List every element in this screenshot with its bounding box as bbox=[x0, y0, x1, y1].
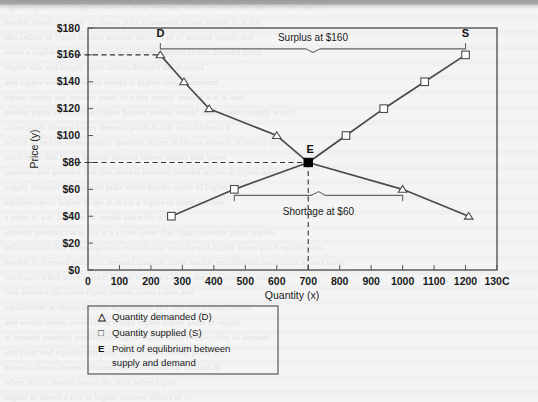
supply-data-point bbox=[421, 78, 429, 86]
equilibrium-label: E bbox=[307, 143, 314, 155]
surplus-brace bbox=[160, 43, 465, 53]
y-tick-label: $0 bbox=[68, 264, 80, 276]
y-tick-label: $40 bbox=[62, 210, 80, 222]
x-tick-label: 1000 bbox=[391, 275, 415, 287]
x-tick-label: 400 bbox=[205, 275, 223, 287]
shortage-brace bbox=[234, 192, 402, 202]
x-tick-label: 130C bbox=[484, 275, 510, 287]
surplus-label: Surplus at $160 bbox=[278, 32, 348, 43]
legend-marker-equilibrium: E bbox=[98, 343, 105, 354]
series-endpoint-label-D: D bbox=[156, 27, 164, 39]
shortage-label: Shortage at $60 bbox=[283, 206, 355, 217]
x-tick-label: 300 bbox=[174, 275, 192, 287]
legend-marker-demand: △ bbox=[97, 311, 106, 322]
supply-data-point bbox=[380, 105, 388, 113]
y-axis-title: Price (y) bbox=[28, 129, 40, 168]
equilibrium-point: E bbox=[304, 143, 314, 166]
supply-data-point bbox=[462, 51, 470, 59]
x-tick-label: 1100 bbox=[423, 275, 446, 287]
x-axis-title: Quantity (x) bbox=[265, 289, 319, 301]
x-tick-label: 0 bbox=[85, 275, 91, 287]
y-tick-label: $20 bbox=[62, 237, 80, 249]
x-tick-label: 200 bbox=[142, 275, 160, 287]
reference-lines-outside bbox=[76, 55, 308, 163]
legend-label-demand: Quantity demanded (D) bbox=[112, 311, 212, 322]
supply-data-point bbox=[230, 186, 238, 194]
x-axis-ticks: 0100200300400500600700800900100011001200… bbox=[85, 265, 510, 287]
y-tick-label: $100 bbox=[57, 129, 81, 141]
x-tick-label: 800 bbox=[331, 275, 349, 287]
x-tick-label: 700 bbox=[299, 275, 317, 287]
x-tick-label: 100 bbox=[111, 275, 129, 287]
y-tick-label: $180 bbox=[57, 22, 81, 34]
x-tick-label: 500 bbox=[237, 275, 255, 287]
legend-label-equilibrium-line1: Point of equlibrium between bbox=[112, 343, 230, 354]
x-tick-label: 900 bbox=[362, 275, 380, 287]
y-tick-label: $120 bbox=[57, 102, 81, 114]
equilibrium-marker bbox=[304, 158, 312, 166]
legend-label-supply: Quantity supplied (S) bbox=[112, 327, 202, 338]
annotations-group: Surplus at $160Shortage at $60 bbox=[160, 32, 465, 217]
supply-data-point bbox=[168, 212, 176, 220]
y-tick-label: $60 bbox=[62, 183, 80, 195]
legend-marker-supply: □ bbox=[98, 327, 104, 338]
chart-legend: △ Quantity demanded (D) □ Quantity suppl… bbox=[88, 306, 278, 374]
x-tick-label: 600 bbox=[268, 275, 286, 287]
series-endpoint-label-S: S bbox=[462, 27, 469, 39]
y-tick-label: $140 bbox=[57, 75, 81, 87]
supply-demand-chart: $0$20$40$60$80$100$120$140$160$180 01002… bbox=[0, 0, 538, 402]
data-series-group bbox=[156, 51, 473, 220]
supply-data-point bbox=[342, 132, 350, 140]
x-tick-label: 1200 bbox=[454, 275, 478, 287]
legend-label-equilibrium-line2: supply and demand bbox=[112, 357, 196, 368]
